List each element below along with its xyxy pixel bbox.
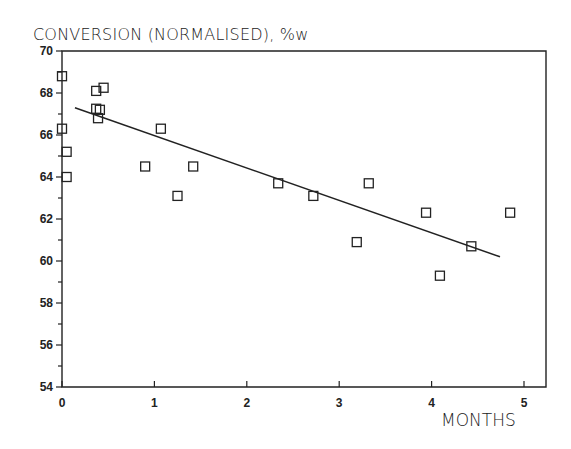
data-point-square-marker [62,173,71,182]
data-point-square-marker [364,179,373,188]
data-point-square-marker [156,124,165,133]
data-point-square-marker [173,191,182,200]
x-tick-label: 3 [336,396,343,410]
y-tick-label: 68 [40,86,54,100]
y-tick-label: 60 [40,254,54,268]
data-point-square-marker [422,208,431,217]
data-point-square-marker [62,147,71,156]
x-tick-label: 2 [243,396,250,410]
y-tick-label: 64 [40,170,54,184]
data-point-square-marker [435,271,444,280]
y-tick-label: 70 [40,44,54,58]
scatter-chart: CONVERSION (NORMALISED), %w 545658606264… [0,0,571,449]
y-tick-label: 56 [40,338,54,352]
data-point-square-marker [352,238,361,247]
plot-frame [62,51,546,387]
data-point-square-marker [506,208,515,217]
y-tick-label: 54 [40,380,54,394]
y-tick-label: 58 [40,296,54,310]
x-tick-label: 0 [59,396,66,410]
x-tick-label: 4 [428,396,435,410]
data-point-square-marker [189,162,198,171]
y-tick-label: 62 [40,212,54,226]
x-tick-label: 1 [151,396,158,410]
x-tick-label: 5 [521,396,528,410]
trend-line [75,108,500,257]
data-point-square-marker [141,162,150,171]
x-axis-label: MONTHS [441,410,516,430]
y-tick-label: 66 [40,128,54,142]
plot-area: 545658606264666870012345 [0,0,571,449]
